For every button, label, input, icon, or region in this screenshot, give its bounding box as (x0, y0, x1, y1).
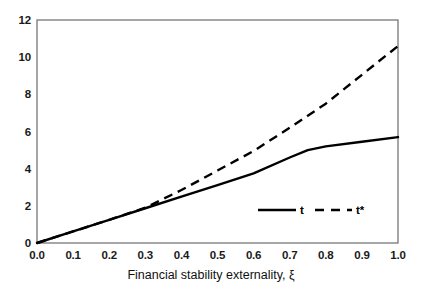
x-tick-label: 0.3 (138, 249, 153, 261)
x-axis-title: Financial stability externality, ξ (0, 268, 422, 282)
x-tick-label: 0.0 (29, 249, 44, 261)
y-tick-label: 8 (2, 88, 31, 100)
x-tick-label: 0.9 (354, 249, 369, 261)
y-tick-label: 2 (2, 200, 31, 212)
x-tick-label: 0.4 (174, 249, 189, 261)
y-tick-label: 10 (2, 51, 31, 63)
legend-label-t-star: t* (356, 204, 364, 216)
x-tick-label: 0.8 (318, 249, 333, 261)
y-tick-label: 12 (2, 14, 31, 26)
legend-label-t: t (300, 204, 304, 216)
plot-frame (37, 20, 398, 243)
x-tick-label: 0.7 (282, 249, 297, 261)
x-tick-label: 0.5 (210, 249, 225, 261)
y-tick-label: 6 (2, 126, 31, 138)
y-tick-label: 4 (2, 163, 31, 175)
x-tick-label: 1.0 (390, 249, 405, 261)
x-tick-label: 0.1 (65, 249, 80, 261)
y-tick-label: 0 (2, 237, 31, 249)
x-tick-label: 0.6 (246, 249, 261, 261)
chart-figure: t t* 024681012 0.00.10.20.30.40.50.60.70… (0, 0, 422, 299)
x-tick-label: 0.2 (101, 249, 116, 261)
